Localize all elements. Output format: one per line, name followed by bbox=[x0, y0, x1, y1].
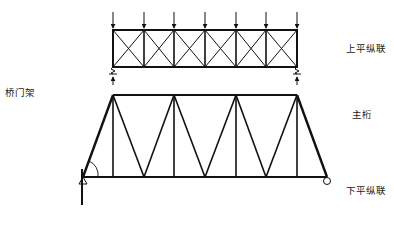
portal-frame-label: 桥门架 bbox=[5, 88, 35, 98]
lower-bracing-final bbox=[0, 0, 394, 239]
upper-bracing-label: 上平纵联 bbox=[346, 44, 386, 54]
main-truss-label: 主桁 bbox=[352, 110, 372, 120]
lower-bracing-label: 下平纵联 bbox=[346, 186, 386, 196]
